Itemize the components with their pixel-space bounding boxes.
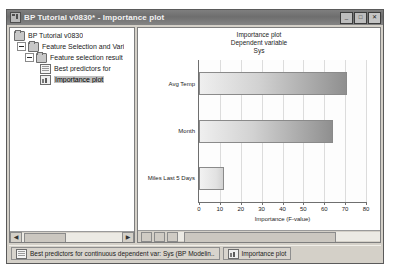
taskbar-item-label: Importance plot <box>242 250 287 257</box>
folder-icon <box>28 42 39 52</box>
graph-icon <box>40 75 51 85</box>
x-axis-tick <box>283 202 284 205</box>
graph-document-pane[interactable]: Importance plot Dependent variable Sys A… <box>137 27 381 243</box>
scroll-right-icon[interactable]: ▶ <box>122 232 134 243</box>
tree-item-feature-selection-and-variable[interactable]: Feature Selection and Vari <box>12 41 134 52</box>
x-axis-tick-label: 10 <box>217 206 224 212</box>
tree-item-label: Feature selection result <box>50 54 123 61</box>
title-bar[interactable]: BP Tutorial v0830* - Importance plot _ □… <box>7 10 383 25</box>
document-taskbar: Best predictors for continuous dependent… <box>9 245 381 261</box>
x-axis-title: Importance (F-value) <box>199 216 366 222</box>
plot-wrapper: Avg TempMonthMiles Last 5 Days 010203040… <box>138 58 380 229</box>
window-controls: _ □ ✕ <box>340 12 381 24</box>
zoom-icon[interactable] <box>141 232 152 242</box>
x-axis-tick-label: 70 <box>342 206 349 212</box>
tree-item-importance-plot[interactable]: Importance plot <box>12 74 134 85</box>
x-axis-tick <box>220 202 221 205</box>
graph-icon <box>228 249 239 259</box>
pan-icon[interactable] <box>154 232 165 242</box>
tree-item-label: Feature Selection and Vari <box>42 43 124 50</box>
tree-item-feature-selection-result[interactable]: Feature selection result <box>12 52 134 63</box>
x-axis-tick-label: 60 <box>321 206 328 212</box>
taskbar-item-importance-plot[interactable]: Importance plot <box>223 247 292 260</box>
scroll-track[interactable] <box>22 233 122 242</box>
client-area: BP Tutorial v0830 Feature Selection and … <box>9 27 381 243</box>
graph-toolbar[interactable] <box>138 232 178 242</box>
x-axis-tick-label: 0 <box>197 206 200 212</box>
bar[interactable] <box>199 167 224 190</box>
tree-horizontal-scrollbar[interactable]: ◀ ▶ <box>10 231 134 242</box>
x-axis-tick <box>199 202 200 205</box>
x-axis-tick-label: 20 <box>237 206 244 212</box>
x-axis-tick-label: 50 <box>300 206 307 212</box>
sheet-icon <box>40 64 51 74</box>
x-axis-tick <box>303 202 304 205</box>
bar[interactable] <box>199 120 333 143</box>
scroll-left-icon[interactable]: ◀ <box>10 232 22 243</box>
x-axis-tick <box>262 202 263 205</box>
x-axis-tick <box>366 202 367 205</box>
x-axis-tick <box>324 202 325 205</box>
workbook-tree: BP Tutorial v0830 Feature Selection and … <box>10 28 134 85</box>
x-axis-tick-label: 30 <box>258 206 265 212</box>
x-axis-tick-label: 40 <box>279 206 286 212</box>
workbook-tree-pane[interactable]: BP Tutorial v0830 Feature Selection and … <box>9 27 135 243</box>
close-button[interactable]: ✕ <box>368 12 381 24</box>
application-window: BP Tutorial v0830* - Importance plot _ □… <box>6 9 384 264</box>
tree-item-label: Importance plot <box>54 76 104 83</box>
scroll-thumb[interactable] <box>24 233 66 244</box>
collapse-toggle-icon[interactable] <box>17 42 26 51</box>
tree-item-bp-tutorial[interactable]: BP Tutorial v0830 <box>12 30 134 41</box>
collapse-toggle-icon[interactable] <box>25 53 34 62</box>
graph-horizontal-scrollbar[interactable] <box>138 230 380 242</box>
tree-item-best-predictors[interactable]: Best predictors for <box>12 63 134 74</box>
graph-scroll-track[interactable] <box>178 232 380 241</box>
chart-title: Importance plot <box>138 31 380 39</box>
taskbar-item-label: Best predictors for continuous dependent… <box>30 250 215 257</box>
sheet-icon <box>16 249 27 259</box>
plot-area[interactable]: Avg TempMonthMiles Last 5 Days 010203040… <box>198 60 366 203</box>
taskbar-item-best-predictors[interactable]: Best predictors for continuous dependent… <box>11 247 220 260</box>
tree-item-label: BP Tutorial v0830 <box>28 32 83 39</box>
bar[interactable] <box>199 72 347 95</box>
maximize-button[interactable]: □ <box>354 12 367 24</box>
grid-icon[interactable] <box>167 232 178 242</box>
y-axis-tick-label: Month <box>178 127 195 135</box>
x-axis-tick <box>241 202 242 205</box>
minimize-button[interactable]: _ <box>340 12 353 24</box>
y-axis-tick-label: Avg Temp <box>169 80 195 88</box>
graph-scroll-thumb[interactable] <box>184 232 336 243</box>
gridline <box>366 60 367 202</box>
folder-icon <box>14 31 25 41</box>
chart-title-block: Importance plot Dependent variable Sys <box>138 28 380 55</box>
y-axis-tick-label: Miles Last 5 Days <box>148 174 195 182</box>
x-axis-tick <box>345 202 346 205</box>
workbook-icon <box>10 12 21 23</box>
chart-dependent-variable: Sys <box>138 47 380 55</box>
window-title: BP Tutorial v0830* - Importance plot <box>24 13 340 22</box>
chart-subtitle: Dependent variable <box>138 39 380 47</box>
x-axis-tick-label: 80 <box>363 206 370 212</box>
folder-icon <box>36 53 47 63</box>
tree-item-label: Best predictors for <box>54 65 111 72</box>
